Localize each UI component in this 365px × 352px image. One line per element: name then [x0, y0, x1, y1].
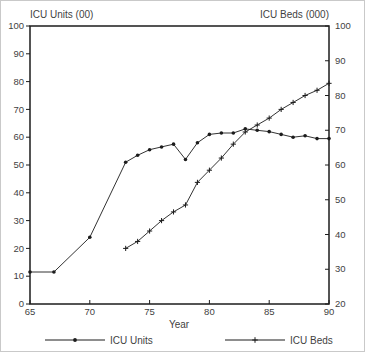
right-tick-label: 30: [335, 263, 346, 274]
dot-marker-icon: [232, 131, 236, 135]
dot-marker-icon: [208, 133, 212, 137]
left-tick-label: 50: [13, 159, 24, 170]
plus-marker-icon: [123, 246, 128, 251]
x-axis-label: Year: [169, 319, 190, 330]
left-tick-label: 80: [13, 76, 24, 87]
left-tick-label: 10: [13, 270, 24, 281]
data-series: [28, 81, 331, 274]
dot-marker-icon: [136, 153, 140, 157]
plus-marker-icon: [183, 202, 188, 207]
x-tick-label: 65: [25, 306, 36, 317]
plus-marker-icon: [326, 81, 331, 86]
series-line-icu-units: [30, 129, 329, 272]
left-tick-label: 90: [13, 48, 24, 59]
plus-marker-icon: [291, 100, 296, 105]
left-axis-title: ICU Units (00): [30, 9, 93, 20]
right-tick-label: 50: [335, 194, 346, 205]
dot-marker-icon: [148, 148, 152, 152]
left-tick-label: 60: [13, 131, 24, 142]
x-tick-label: 80: [204, 306, 215, 317]
plus-marker-icon: [302, 93, 307, 98]
dot-marker-icon: [279, 133, 283, 137]
series-line-icu-beds: [126, 83, 329, 248]
legend: ICU Units ICU Beds: [45, 335, 333, 346]
plus-marker-icon: [314, 88, 319, 93]
dot-marker-icon: [220, 131, 224, 135]
dot-marker-icon: [184, 158, 188, 162]
left-tick-label: 40: [13, 187, 24, 198]
dot-marker-icon: [327, 137, 331, 141]
legend-label-icu-units: ICU Units: [110, 335, 153, 346]
left-tick-label: 30: [13, 215, 24, 226]
x-tick-label: 75: [144, 306, 155, 317]
right-tick-label: 40: [335, 229, 346, 240]
left-tick-label: 20: [13, 243, 24, 254]
dot-marker-icon: [303, 134, 307, 138]
dot-marker-icon: [88, 235, 92, 239]
left-tick-label: 100: [8, 20, 24, 31]
right-tick-label: 80: [335, 90, 346, 101]
legend-label-icu-beds: ICU Beds: [290, 335, 333, 346]
dot-marker-icon: [28, 270, 32, 274]
dot-marker-icon: [73, 338, 77, 342]
right-tick-label: 70: [335, 124, 346, 135]
dot-marker-icon: [52, 270, 56, 274]
plus-marker-icon: [252, 337, 258, 343]
chart-canvas: ICU Units (00) ICU Beds (000) 0102030405…: [1, 1, 365, 352]
icu-line-chart: ICU Units (00) ICU Beds (000) 0102030405…: [0, 0, 365, 352]
right-tick-label: 60: [335, 159, 346, 170]
dot-marker-icon: [255, 128, 259, 132]
right-tick-label: 90: [335, 55, 346, 66]
dot-marker-icon: [291, 135, 295, 139]
dot-marker-icon: [160, 145, 164, 149]
dot-marker-icon: [124, 160, 128, 164]
dot-marker-icon: [196, 141, 200, 145]
x-tick-label: 90: [324, 306, 335, 317]
x-tick-label: 85: [264, 306, 275, 317]
dot-marker-icon: [315, 137, 319, 141]
dot-marker-icon: [267, 130, 271, 134]
left-tick-label: 70: [13, 104, 24, 115]
dot-marker-icon: [172, 142, 176, 146]
x-tick-label: 70: [85, 306, 96, 317]
axis-ticks: 0102030405060708090100203040506070809010…: [8, 20, 351, 317]
plus-marker-icon: [255, 122, 260, 127]
left-tick-label: 0: [19, 298, 24, 309]
right-tick-label: 20: [335, 298, 346, 309]
right-tick-label: 100: [335, 20, 351, 31]
plot-frame: [30, 26, 329, 304]
right-axis-title: ICU Beds (000): [260, 9, 329, 20]
